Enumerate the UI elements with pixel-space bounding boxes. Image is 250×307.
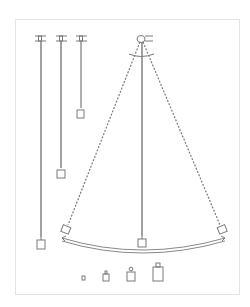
swing-string-left bbox=[68, 42, 140, 225]
weight-tiny bbox=[82, 276, 85, 280]
pivot-icon bbox=[137, 36, 153, 43]
hook-icon bbox=[35, 36, 46, 41]
pendulum-bob-long bbox=[37, 240, 45, 249]
swing-bob-right bbox=[217, 225, 227, 234]
swing-bob-left bbox=[61, 225, 71, 234]
pendulum-bob-short bbox=[77, 110, 84, 118]
pendulum-diagram bbox=[0, 0, 250, 307]
swing-string-right bbox=[143, 42, 220, 225]
hook-icon bbox=[56, 36, 67, 41]
main-pendulum-bob bbox=[138, 239, 146, 247]
hook-icon bbox=[76, 36, 87, 41]
pendulum-bob-medium bbox=[57, 170, 65, 178]
weight-medium bbox=[127, 267, 135, 281]
weight-large bbox=[153, 263, 163, 281]
swing-arc-outer bbox=[62, 238, 225, 250]
weight-small bbox=[103, 271, 109, 281]
